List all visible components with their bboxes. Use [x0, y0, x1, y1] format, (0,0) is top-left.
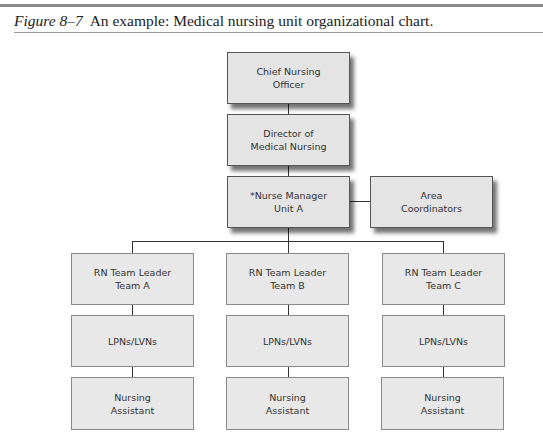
- box-team-b-leader: RN Team Leader Team B: [226, 253, 349, 305]
- figure-label: Figure 8–7: [14, 12, 83, 29]
- connector-director-manager: [288, 166, 289, 176]
- box-label: *Nurse Manager: [250, 189, 327, 202]
- box-team-b-lpn: LPNs/LVNs: [226, 315, 349, 367]
- box-director-medical-nursing: Director of Medical Nursing: [227, 114, 350, 166]
- box-label: Assistant: [266, 404, 309, 417]
- box-label: Coordinators: [401, 202, 462, 215]
- box-label: Assistant: [111, 404, 154, 417]
- box-nurse-manager: *Nurse Manager Unit A: [227, 176, 350, 228]
- connector-manager-teams: [288, 228, 289, 241]
- box-label: Area: [421, 189, 443, 202]
- figure-caption: Figure 8–7 An example: Medical nursing u…: [14, 12, 433, 30]
- box-label: Team C: [426, 279, 461, 292]
- caption-rule: [14, 32, 543, 33]
- connector-team-c: [443, 241, 444, 253]
- box-team-a-leader: RN Team Leader Team A: [71, 253, 194, 305]
- box-label: Team B: [270, 279, 305, 292]
- box-label: Nursing: [424, 391, 461, 404]
- box-team-c-assistant: Nursing Assistant: [381, 377, 504, 430]
- box-label: Team A: [115, 279, 150, 292]
- box-area-coordinators: Area Coordinators: [370, 176, 493, 228]
- box-team-c-lpn: LPNs/LVNs: [382, 315, 505, 367]
- box-label: Medical Nursing: [250, 140, 326, 153]
- box-label: Assistant: [421, 404, 464, 417]
- box-label: Officer: [273, 78, 305, 91]
- connector-c-leader-lpn: [443, 305, 444, 315]
- box-team-a-lpn: LPNs/LVNs: [71, 315, 194, 367]
- connector-manager-coordinators: [350, 201, 370, 202]
- connector-team-a: [132, 241, 133, 253]
- box-label: RN Team Leader: [405, 266, 482, 279]
- box-label: Director of: [263, 127, 313, 140]
- box-label: RN Team Leader: [94, 266, 171, 279]
- top-rule: [0, 4, 543, 7]
- box-label: RN Team Leader: [249, 266, 326, 279]
- box-label: Nursing: [269, 391, 306, 404]
- box-chief-nursing-officer: Chief Nursing Officer: [227, 52, 350, 104]
- connector-a-leader-lpn: [132, 305, 133, 315]
- connector-team-b: [288, 241, 289, 253]
- connector-cno-director: [288, 104, 289, 114]
- box-team-c-leader: RN Team Leader Team C: [382, 253, 505, 305]
- box-label: LPNs/LVNs: [108, 335, 157, 348]
- box-label: Unit A: [274, 202, 303, 215]
- caption-text: An example: Medical nursing unit organiz…: [90, 12, 434, 29]
- box-label: LPNs/LVNs: [263, 335, 312, 348]
- box-label: Nursing: [114, 391, 151, 404]
- connector-c-lpn-assistant: [443, 367, 444, 377]
- box-label: LPNs/LVNs: [419, 335, 468, 348]
- box-team-b-assistant: Nursing Assistant: [226, 377, 349, 430]
- connector-b-leader-lpn: [288, 305, 289, 315]
- connector-b-lpn-assistant: [288, 367, 289, 377]
- box-label: Chief Nursing: [256, 65, 320, 78]
- connector-a-lpn-assistant: [132, 367, 133, 377]
- box-team-a-assistant: Nursing Assistant: [71, 377, 194, 430]
